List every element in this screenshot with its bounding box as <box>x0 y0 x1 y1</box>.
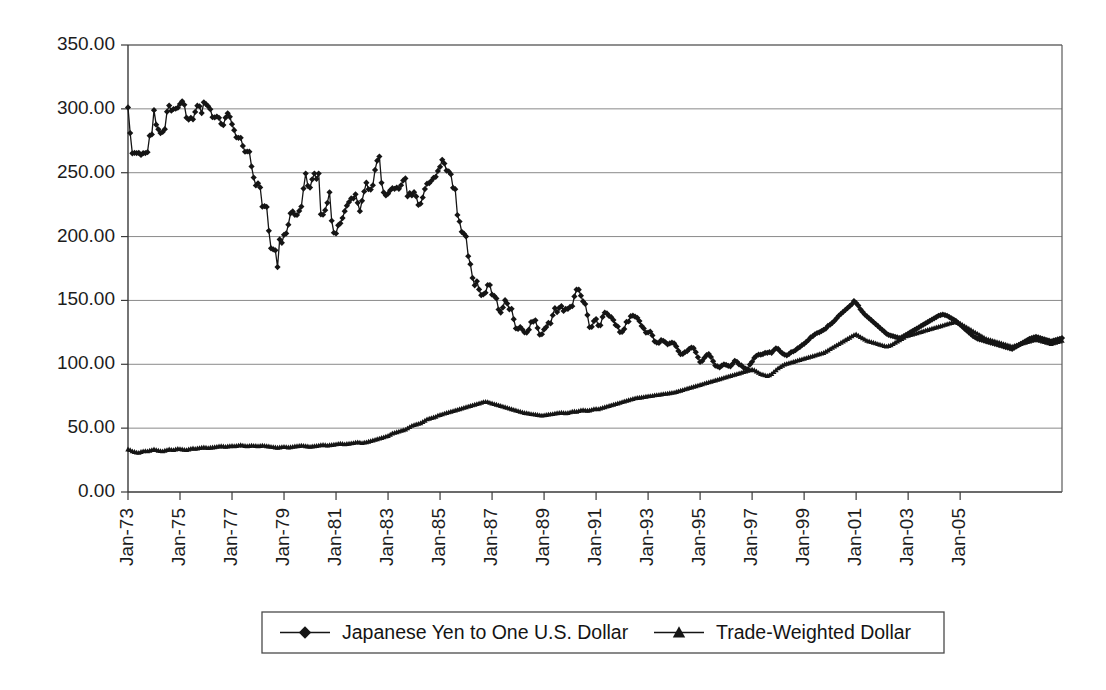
x-axis-tick-label: Jan-99 <box>792 508 813 566</box>
y-axis-tick-label: 50.00 <box>67 416 115 437</box>
x-axis-tick-label: Jan-01 <box>844 508 865 566</box>
y-axis-tick-label: 250.00 <box>57 161 115 182</box>
exchange-rate-line-chart: 0.0050.00100.00150.00200.00250.00300.003… <box>0 0 1106 690</box>
x-axis-tick-label: Jan-87 <box>480 508 501 566</box>
y-axis-tick-label: 350.00 <box>57 33 115 54</box>
y-axis-tick-label: 300.00 <box>57 97 115 118</box>
x-axis-tick-label: Jan-95 <box>688 508 709 566</box>
x-axis-tick-label: Jan-75 <box>168 508 189 566</box>
x-axis-tick-label: Jan-77 <box>220 508 241 566</box>
y-axis-tick-label: 200.00 <box>57 225 115 246</box>
x-axis-tick-label: Jan-89 <box>532 508 553 566</box>
x-axis-tick-label: Jan-85 <box>428 508 449 566</box>
chart-container: 0.0050.00100.00150.00200.00250.00300.003… <box>0 0 1106 690</box>
x-axis-tick-label: Jan-93 <box>636 508 657 566</box>
y-axis-tick-label: 150.00 <box>57 288 115 309</box>
x-axis-tick-label: Jan-79 <box>272 508 293 566</box>
x-axis-tick-label: Jan-83 <box>376 508 397 566</box>
x-axis-tick-label: Jan-97 <box>740 508 761 566</box>
x-axis-tick-label: Jan-73 <box>116 508 137 566</box>
x-axis-tick-label: Jan-05 <box>948 508 969 566</box>
chart-background <box>0 0 1106 690</box>
legend-label: Trade-Weighted Dollar <box>716 621 912 643</box>
x-axis-tick-label: Jan-91 <box>584 508 605 566</box>
y-axis-tick-label: 0.00 <box>78 480 115 501</box>
x-axis-tick-label: Jan-03 <box>896 508 917 566</box>
legend-label: Japanese Yen to One U.S. Dollar <box>342 621 629 643</box>
x-axis-tick-label: Jan-81 <box>324 508 345 566</box>
chart-legend: Japanese Yen to One U.S. DollarTrade-Wei… <box>262 612 944 653</box>
y-axis-tick-label: 100.00 <box>57 352 115 373</box>
